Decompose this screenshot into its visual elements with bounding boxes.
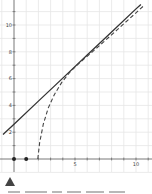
chart-plot: 510246810 xyxy=(0,0,152,180)
axes xyxy=(0,0,152,172)
y-tick-label: 4 xyxy=(9,102,12,108)
dashed-curve xyxy=(38,6,144,159)
data-point xyxy=(24,157,28,161)
data-series xyxy=(3,4,143,159)
y-tick-label: 8 xyxy=(9,49,12,55)
triangle-up-icon[interactable] xyxy=(5,177,15,186)
x-tick-label: 10 xyxy=(133,161,139,167)
x-tick-label: 5 xyxy=(73,161,76,167)
y-tick-label: 10 xyxy=(6,22,12,28)
y-tick-label: 2 xyxy=(9,129,12,135)
truncated-caption xyxy=(8,189,148,194)
data-point xyxy=(12,157,16,161)
y-tick-label: 6 xyxy=(9,75,12,81)
grid-lines xyxy=(0,0,152,172)
